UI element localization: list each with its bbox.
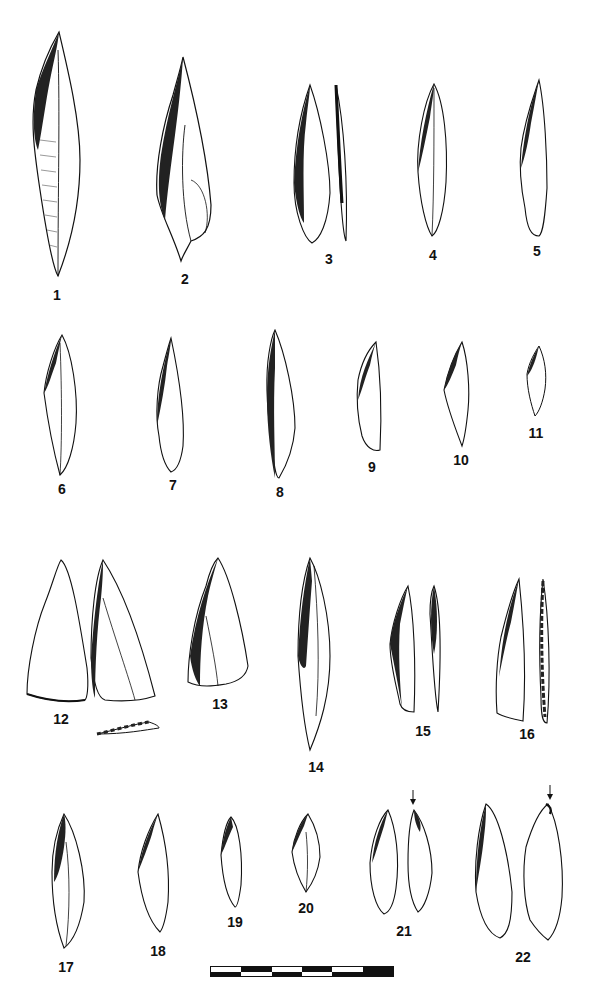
artifact-5-drawing — [517, 78, 553, 238]
artifact-8-drawing — [263, 328, 301, 480]
artifact-11-drawing — [525, 344, 549, 418]
artifact-3-label: 3 — [325, 252, 333, 266]
artifact-19-drawing — [219, 815, 247, 909]
burin-arrow-21-icon — [409, 790, 417, 810]
artifact-15-label: 15 — [415, 724, 431, 738]
artifact-10-drawing — [442, 340, 474, 448]
artifact-16-label: 16 — [519, 727, 535, 741]
artifact-3-drawing — [290, 83, 360, 245]
artifact-19-label: 19 — [227, 915, 243, 929]
scale-segment — [363, 972, 393, 977]
artifact-5-label: 5 — [533, 244, 541, 258]
artifact-9-label: 9 — [368, 460, 376, 474]
artifact-20-drawing — [290, 812, 322, 894]
artifact-11-label: 11 — [529, 426, 544, 440]
artifact-12-drawing — [25, 558, 161, 738]
artifact-1-label: 1 — [53, 288, 61, 302]
artifact-18-label: 18 — [150, 944, 166, 958]
artifact-17-drawing — [50, 812, 90, 950]
artifact-9-drawing — [354, 340, 384, 454]
scale-segment — [302, 972, 332, 977]
artifact-4-drawing — [416, 82, 452, 238]
artifact-8-label: 8 — [276, 485, 284, 499]
artifact-21-label: 21 — [396, 924, 412, 938]
artifact-15-drawing — [388, 584, 452, 716]
artifact-14-label: 14 — [308, 760, 324, 774]
artifact-10-label: 10 — [453, 453, 469, 467]
artifact-22-drawing — [472, 802, 572, 942]
artifact-2-drawing — [155, 55, 215, 265]
artifact-18-drawing — [136, 812, 172, 936]
artifact-7-drawing — [153, 336, 189, 474]
artifact-21-drawing — [368, 808, 440, 918]
artifact-7-label: 7 — [169, 478, 177, 492]
artifact-17-label: 17 — [58, 960, 74, 974]
artifact-14-drawing — [296, 556, 336, 752]
scale-segment — [211, 972, 241, 977]
scale-segment — [332, 972, 362, 977]
artifact-6-label: 6 — [58, 482, 66, 496]
scale-bar-bottom-row — [211, 972, 393, 977]
artifact-6-drawing — [42, 333, 82, 477]
artifact-16-drawing — [493, 577, 555, 725]
artifact-2-label: 2 — [181, 272, 189, 286]
scale-segment — [272, 972, 302, 977]
artifact-20-label: 20 — [298, 901, 314, 915]
scale-bar — [210, 966, 394, 977]
artifact-13-label: 13 — [212, 697, 228, 711]
lithic-plate: 1 2 3 4 5 — [0, 0, 592, 998]
artifact-22-label: 22 — [515, 950, 531, 964]
artifact-1-drawing — [28, 30, 84, 280]
scale-segment — [241, 972, 271, 977]
artifact-12-label: 12 — [53, 712, 69, 726]
artifact-13-drawing — [186, 556, 250, 692]
artifact-4-label: 4 — [429, 248, 437, 262]
burin-arrow-22-icon — [546, 785, 554, 805]
